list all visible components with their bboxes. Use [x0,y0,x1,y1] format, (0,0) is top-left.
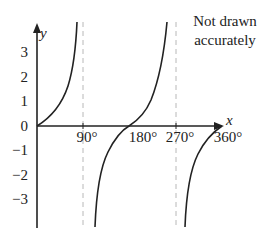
y-axis-label: y [38,25,47,41]
y-tick-1: 1 [21,93,29,109]
accuracy-note: Not drawn accurately [190,12,260,50]
note-line-1: Not drawn [190,12,260,31]
y-tick-minus-2: −2 [12,167,28,183]
y-tick-2: 2 [21,69,29,85]
x-tick-90: 90° [77,129,98,145]
y-tick-minus-1: −1 [12,142,28,158]
x-tick-180: 180° [129,129,158,145]
curve-branch-2 [95,22,167,227]
note-line-2: accurately [190,31,260,50]
x-axis-label: x [225,112,233,128]
y-tick-3: 3 [21,44,29,60]
x-tick-360: 360° [214,129,243,145]
y-tick-0: 0 [21,118,29,134]
y-tick-minus-3: −3 [12,191,28,207]
x-tick-270: 270° [166,129,195,145]
